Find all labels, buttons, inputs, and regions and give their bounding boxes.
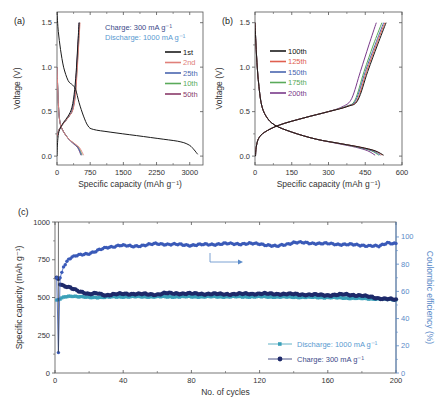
series-group <box>255 23 386 156</box>
y2-tick-label: 40 <box>401 314 409 323</box>
legend-label: 50th <box>183 90 198 99</box>
y-axis-title: Voltage (V) <box>214 67 224 109</box>
series-100th-discharge-line <box>255 23 384 156</box>
y-tick-label: 500 <box>37 293 50 302</box>
y-tick-label: 1000 <box>33 218 50 227</box>
series-25th-discharge-line <box>57 67 81 155</box>
panel-b: 01503004506000.00.51.01.5Specific capaci… <box>214 12 408 189</box>
y2-tick-label: 80 <box>401 260 409 269</box>
right-axis-arrow <box>210 253 243 265</box>
y2-tick-label: 100 <box>401 232 414 241</box>
series-2nd-charge-line <box>57 23 80 137</box>
series-125th-charge-line <box>256 23 385 156</box>
x-tick-label: 40 <box>119 376 127 385</box>
ce-point <box>58 276 61 279</box>
y2-tick-label: 0 <box>401 369 405 378</box>
x-tick-label: 1500 <box>115 168 132 177</box>
ce-point <box>64 263 67 266</box>
x-axis-title: Specific capacity (mAh g⁻¹) <box>78 179 182 189</box>
x-tick-label: 3000 <box>181 168 198 177</box>
x-tick-label: 0 <box>53 376 57 385</box>
legend-label: Discharge: 1000 mA g⁻¹ <box>297 340 378 349</box>
series-50th-discharge-line <box>57 67 81 155</box>
legend-label: 125th <box>288 57 307 66</box>
y-tick-label: 0 <box>46 369 50 378</box>
legend-label: 25th <box>183 69 198 78</box>
legend-label: 2nd <box>183 58 196 67</box>
legend-circle-marker <box>278 357 283 362</box>
legend-square-marker <box>278 342 282 346</box>
y-tick-label: 1.0 <box>42 63 52 72</box>
legend-label: 10th <box>183 79 198 88</box>
y2-tick-label: 20 <box>401 341 409 350</box>
x-tick-label: 450 <box>359 168 372 177</box>
y-tick-label: 750 <box>37 255 50 264</box>
rate-annotation: Charge: 300 mA g⁻¹ <box>105 23 172 32</box>
y-tick-label: 0.5 <box>240 107 250 116</box>
y-tick-label: 1.5 <box>42 18 52 27</box>
arrow-head <box>238 260 243 265</box>
y-tick-label: 0.0 <box>42 152 52 161</box>
ce-point <box>394 242 397 245</box>
y-tick-label: 250 <box>37 331 50 340</box>
x-axis-title: No. of cycles <box>201 387 250 397</box>
panel-a: 07501500225030000.00.51.01.5Specific cap… <box>12 12 203 189</box>
arrow-line <box>210 253 240 262</box>
y-tick-label: 0.5 <box>42 107 52 116</box>
x-tick-label: 160 <box>322 376 335 385</box>
y2-tick-label: 60 <box>401 287 409 296</box>
legend-label: 100th <box>288 47 307 56</box>
y-axis-title: Voltage (V) <box>12 67 22 109</box>
panel-c: 0408012016020002505007501000No. of cycle… <box>14 207 435 397</box>
y-tick-label: 0.0 <box>240 152 250 161</box>
series-200th-discharge-line <box>255 23 375 156</box>
x-axis-title: Specific capacity (mAh g⁻¹) <box>277 179 381 189</box>
x-tick-label: 120 <box>253 376 266 385</box>
legend-label: 150th <box>288 68 307 77</box>
y-tick-label: 1.5 <box>240 18 250 27</box>
x-tick-label: 300 <box>322 168 335 177</box>
y2-axis-title: Coulombic efficiency (%) <box>425 251 435 345</box>
charge-point <box>394 297 398 301</box>
panel-label: (b) <box>222 16 233 26</box>
legend-label: 175th <box>288 78 307 87</box>
legend-label: 1st <box>183 48 194 57</box>
legend: Discharge: 1000 mA g⁻¹Charge: 300 mA g⁻¹ <box>268 340 378 364</box>
y-axis-title: Specific capacity (mAh g⁻¹) <box>14 245 24 349</box>
x-tick-label: 150 <box>285 168 298 177</box>
x-tick-label: 80 <box>187 376 195 385</box>
legend-label: 200th <box>288 89 307 98</box>
series-175th-charge-line <box>256 23 382 156</box>
series-200th-charge-line <box>256 23 377 156</box>
ce-point <box>60 271 63 274</box>
series-150th-charge-line <box>256 23 384 156</box>
panel-label: (a) <box>14 16 25 26</box>
series-100th-charge-line <box>256 23 387 156</box>
rate-annotation: Discharge: 1000 mA g⁻¹ <box>105 33 186 42</box>
x-tick-label: 0 <box>55 168 59 177</box>
ce-point <box>55 276 58 279</box>
figure: 07501500225030000.00.51.01.5Specific cap… <box>0 0 447 415</box>
x-tick-label: 750 <box>84 168 97 177</box>
y-tick-label: 1.0 <box>240 63 250 72</box>
x-tick-label: 600 <box>396 168 409 177</box>
series-10th-discharge-line <box>57 67 82 155</box>
legend-label: Charge: 300 mA g⁻¹ <box>297 355 364 364</box>
x-tick-label: 0 <box>253 168 257 177</box>
panel-label: (c) <box>18 207 29 217</box>
x-tick-label: 2250 <box>148 168 165 177</box>
series-125th-discharge-line <box>255 23 382 156</box>
